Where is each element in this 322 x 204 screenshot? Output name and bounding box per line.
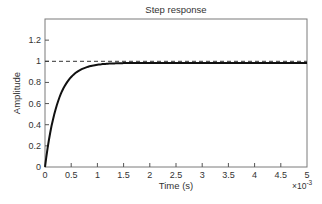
y-axis-tick-labels: 00.20.40.60.811.2 [28, 35, 41, 172]
x-tick-label: 3.5 [222, 170, 235, 180]
y-tick-label: 0.4 [28, 120, 41, 130]
y-tick-label: 1 [36, 56, 41, 66]
x-tick-label: 4 [252, 170, 257, 180]
x-tick-label: 3 [200, 170, 205, 180]
chart-title: Step response [145, 4, 206, 15]
x-tick-label: 0.5 [65, 170, 78, 180]
y-axis-label: Amplitude [11, 72, 22, 114]
step-response-chart: Step response 00.511.522.533.544.55 00.2… [0, 0, 322, 204]
x-axis-label: Time (s) [159, 180, 193, 191]
x-axis-multiplier: ×10-3 [292, 179, 313, 191]
x-axis-tick-labels: 00.511.522.533.544.55 [42, 170, 309, 180]
x-axis-multiplier-base: ×10 [292, 181, 307, 191]
plot-frame [45, 19, 307, 167]
y-tick-label: 0.2 [28, 141, 41, 151]
y-tick-label: 0 [36, 162, 41, 172]
x-tick-label: 2 [147, 170, 152, 180]
x-tick-label: 4.5 [275, 170, 288, 180]
y-tick-label: 0.8 [28, 77, 41, 87]
x-tick-label: 1 [95, 170, 100, 180]
plot-area [45, 19, 307, 167]
y-tick-label: 0.6 [28, 99, 41, 109]
x-tick-label: 2.5 [170, 170, 183, 180]
x-tick-label: 1.5 [117, 170, 130, 180]
x-tick-label: 0 [42, 170, 47, 180]
x-axis-multiplier-exponent: -3 [306, 179, 312, 186]
y-tick-label: 1.2 [28, 35, 41, 45]
